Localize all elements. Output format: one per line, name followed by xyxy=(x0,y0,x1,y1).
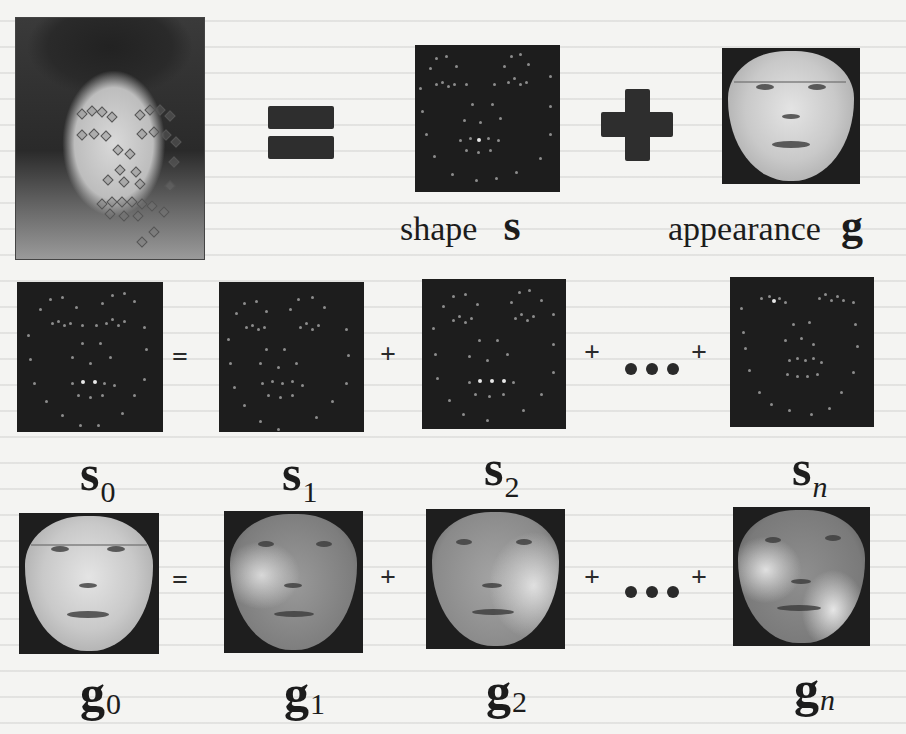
shape-word: shape xyxy=(400,210,477,247)
shape-equals: = xyxy=(172,343,188,371)
input-face-photo xyxy=(15,17,205,260)
shape-basis-s1-image xyxy=(219,282,364,432)
equals-bar-bottom xyxy=(268,136,334,159)
shape-plus-3: + xyxy=(691,338,707,366)
appearance-symbol: g xyxy=(841,201,863,250)
shape-model-image xyxy=(415,45,560,192)
shape-basis-sn-image xyxy=(730,277,874,427)
appearance-plus-2: + xyxy=(584,563,600,591)
appearance-word: appearance xyxy=(668,210,821,247)
label-s1: s1 xyxy=(282,448,317,498)
appearance-mean-g0-image xyxy=(19,513,159,654)
shape-plus-2: + xyxy=(584,338,600,366)
label-sn: sn xyxy=(792,443,827,493)
label-s0: s0 xyxy=(80,448,115,498)
appearance-ellipsis xyxy=(625,586,679,598)
appearance-plus-1: + xyxy=(380,563,396,591)
shape-mean-s0-image xyxy=(17,282,163,432)
appearance-label: appearance g xyxy=(668,204,863,248)
shape-label: shape s xyxy=(400,204,521,248)
shape-basis-s2-image xyxy=(422,279,566,429)
appearance-model-image xyxy=(722,48,860,184)
label-g2: g2 xyxy=(486,666,527,716)
appearance-basis-g1-image xyxy=(224,511,363,653)
shape-plus-1: + xyxy=(380,340,396,368)
appearance-equals: = xyxy=(172,566,188,594)
shape-ellipsis xyxy=(625,363,679,375)
equals-bar-top xyxy=(268,106,334,129)
appearance-basis-gn-image xyxy=(733,507,870,646)
appearance-basis-g2-image xyxy=(426,509,565,649)
label-gn: gn xyxy=(794,664,835,714)
label-g0: g0 xyxy=(80,668,121,718)
shape-symbol: s xyxy=(503,201,520,250)
appearance-plus-3: + xyxy=(691,563,707,591)
label-s2: s2 xyxy=(484,443,519,493)
plus-horizontal-bar xyxy=(601,112,673,137)
label-g1: g1 xyxy=(284,668,325,718)
